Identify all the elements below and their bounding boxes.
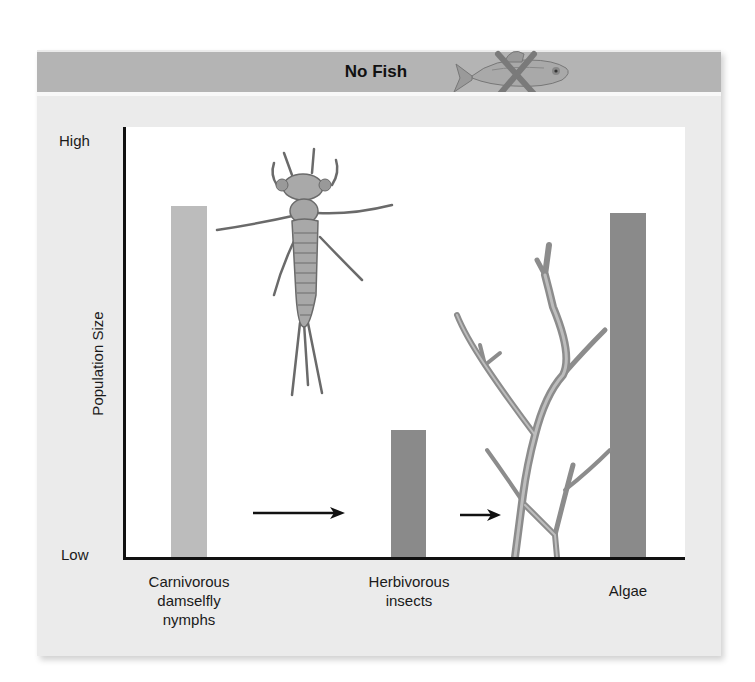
x-label-line: Herbivorous	[329, 572, 489, 591]
x-label-algae: Algae	[548, 581, 708, 600]
x-label-line: nymphs	[109, 610, 269, 629]
x-axis-line	[123, 557, 685, 560]
x-label-herbivorous-insects: Herbivorous insects	[329, 572, 489, 610]
arrow-nymphs-to-herbivores	[252, 506, 347, 520]
y-tick-high: High	[59, 132, 90, 149]
x-label-line: Algae	[548, 581, 708, 600]
y-axis-label: Population Size	[89, 264, 106, 464]
bar-algae	[610, 213, 646, 558]
header-divider	[37, 92, 721, 96]
header-band: No Fish	[37, 52, 721, 92]
y-axis-line	[123, 127, 126, 560]
bar-herbivorous-insects	[391, 430, 426, 558]
chart-title: No Fish	[37, 62, 721, 82]
arrow-herbivores-to-algae	[459, 508, 503, 522]
x-label-line: Carnivorous	[109, 572, 269, 591]
x-label-line: insects	[329, 591, 489, 610]
x-label-carnivorous-damselfly-nymphs: Carnivorous damselfly nymphs	[109, 572, 269, 629]
chart-panel: No Fish	[37, 50, 721, 656]
chart-title-text: No Fish	[345, 62, 407, 81]
bar-carnivorous-damselfly-nymphs	[171, 206, 207, 558]
y-tick-low: Low	[61, 546, 89, 563]
x-label-line: damselfly	[109, 591, 269, 610]
crossed-out-fish-icon	[434, 38, 594, 96]
damselfly-nymph-illustration	[212, 145, 412, 415]
